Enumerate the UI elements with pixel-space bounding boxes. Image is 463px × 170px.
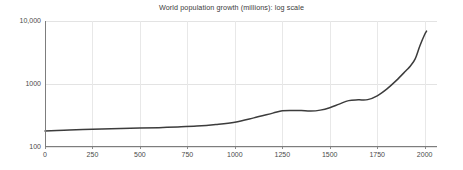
y-axis-line (45, 21, 46, 147)
y-axis-tick-labels: 100100010,000 (0, 0, 41, 170)
x-tick-mark-750 (187, 147, 188, 149)
x-tick-label-2000: 2000 (405, 151, 445, 158)
x-tick-mark-1500 (330, 147, 331, 149)
y-tick-label-10000: 10,000 (1, 17, 41, 24)
chart-title: World population growth (millions): log … (0, 3, 463, 12)
x-tick-label-1250: 1250 (262, 151, 302, 158)
x-tick-label-1750: 1750 (357, 151, 397, 158)
x-tick-mark-2000 (425, 147, 426, 149)
x-axis-tick-labels: 025050075010001250150017502000 (45, 151, 437, 163)
x-tick-mark-1750 (377, 147, 378, 149)
x-tick-mark-1000 (235, 147, 236, 149)
series-plot (45, 21, 437, 147)
chart-figure: World population growth (millions): log … (0, 0, 463, 170)
y-tick-label-1000: 1000 (1, 80, 41, 87)
x-tick-label-500: 500 (120, 151, 160, 158)
x-tick-label-1500: 1500 (310, 151, 350, 158)
x-tick-label-250: 250 (72, 151, 112, 158)
x-tick-mark-1250 (282, 147, 283, 149)
x-tick-label-1000: 1000 (215, 151, 255, 158)
x-tick-mark-0 (45, 147, 46, 149)
x-tick-mark-500 (140, 147, 141, 149)
y-tick-label-100: 100 (1, 143, 41, 150)
plot-area (45, 21, 437, 147)
x-tick-label-0: 0 (25, 151, 65, 158)
x-tick-label-750: 750 (167, 151, 207, 158)
x-tick-mark-250 (92, 147, 93, 149)
line-series-world-population (45, 31, 427, 131)
